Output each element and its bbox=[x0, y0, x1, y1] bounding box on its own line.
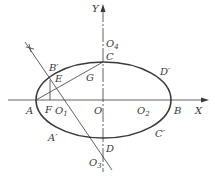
svg-text:E: E bbox=[54, 73, 63, 84]
svg-text:C′: C′ bbox=[155, 128, 166, 139]
svg-text:D′: D′ bbox=[159, 66, 171, 77]
label-b: B bbox=[173, 105, 181, 116]
label-d-prime: D bbox=[159, 66, 168, 77]
svg-text:A: A bbox=[25, 105, 33, 116]
svg-text:B: B bbox=[173, 105, 181, 116]
svg-text:G: G bbox=[86, 72, 94, 83]
svg-text:A′: A′ bbox=[47, 132, 58, 143]
ellipse-construction-diagram: X Y O4 C B′ E G D′ A F O1 O O2 B A′ C′ D… bbox=[0, 0, 215, 177]
label-o: O bbox=[94, 105, 102, 116]
label-o2: O bbox=[137, 105, 145, 116]
svg-text:O2: O2 bbox=[137, 105, 150, 118]
label-e: E bbox=[54, 73, 63, 84]
svg-text:C: C bbox=[106, 51, 114, 62]
svg-text:F: F bbox=[44, 104, 53, 115]
label-o3: O bbox=[89, 157, 97, 168]
y-axis-label: Y bbox=[92, 3, 100, 14]
y-axis-arrow-icon bbox=[101, 4, 106, 12]
x-axis-arrow-icon bbox=[201, 98, 209, 103]
label-f: F bbox=[44, 104, 53, 115]
svg-text:O4: O4 bbox=[106, 38, 119, 51]
svg-text:O1: O1 bbox=[55, 105, 68, 118]
label-o1: O bbox=[55, 105, 63, 116]
x-axis-label: X bbox=[194, 105, 203, 116]
label-o4: O bbox=[106, 38, 114, 49]
svg-text:Y: Y bbox=[92, 3, 100, 14]
label-g: G bbox=[86, 72, 94, 83]
label-a-prime: A bbox=[47, 132, 55, 143]
label-a: A bbox=[25, 105, 33, 116]
svg-text:D: D bbox=[105, 143, 114, 154]
svg-text:X: X bbox=[194, 105, 203, 116]
label-d: D bbox=[105, 143, 114, 154]
svg-text:B′: B′ bbox=[48, 62, 59, 73]
label-c: C bbox=[106, 51, 114, 62]
label-b-prime: B bbox=[48, 62, 56, 73]
svg-text:O: O bbox=[94, 105, 102, 116]
svg-text:O3: O3 bbox=[89, 157, 102, 170]
